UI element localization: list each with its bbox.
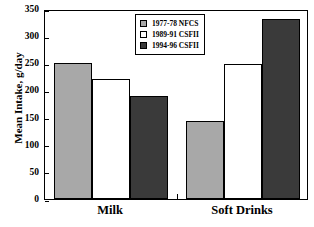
legend-swatch-icon	[140, 20, 147, 27]
legend-label: 1994-96 CSFII	[152, 41, 199, 50]
y-axis-tick-mark	[45, 201, 49, 202]
legend-label: 1989-91 CSFII	[152, 30, 199, 39]
y-axis-title: Mean Intake, g/day	[12, 18, 24, 178]
x-axis-group-label: Soft Drinks	[176, 203, 308, 218]
x-axis-separator-tick	[177, 194, 178, 199]
bar	[92, 79, 130, 199]
legend-swatch-icon	[140, 42, 147, 49]
y-axis-tick-label: 300	[25, 31, 39, 41]
bar	[262, 19, 300, 199]
y-axis-tick-label: 200	[25, 85, 39, 95]
bar	[224, 64, 262, 199]
y-axis-tick-mark	[45, 92, 49, 93]
y-axis-tick-mark	[45, 65, 49, 66]
y-axis-tick-mark	[45, 146, 49, 147]
bar	[130, 96, 168, 199]
y-axis-tick-mark	[45, 119, 49, 120]
y-axis-tick-label: 0	[34, 194, 39, 204]
bar	[54, 63, 92, 199]
legend-item: 1989-91 CSFII	[140, 29, 199, 40]
y-axis-tick-label: 50	[30, 167, 40, 177]
legend-item: 1977-78 NFCS	[140, 18, 199, 29]
legend-item: 1994-96 CSFII	[140, 40, 199, 51]
y-axis-tick-label: 250	[25, 58, 39, 68]
x-axis-group-label: Milk	[44, 203, 176, 218]
chart-figure: Mean Intake, g/day 050100150200250300350…	[0, 0, 314, 227]
bar	[186, 121, 224, 199]
y-axis-tick-label: 350	[25, 4, 39, 14]
legend-swatch-icon	[140, 31, 147, 38]
y-axis-tick-label: 100	[25, 140, 39, 150]
chart-legend: 1977-78 NFCS 1989-91 CSFII 1994-96 CSFII	[135, 14, 205, 55]
y-axis-tick-mark	[45, 38, 49, 39]
y-axis-tick-mark	[45, 173, 49, 174]
legend-label: 1977-78 NFCS	[152, 19, 198, 28]
y-axis-tick-mark	[45, 11, 49, 12]
y-axis-tick-label: 150	[25, 113, 39, 123]
